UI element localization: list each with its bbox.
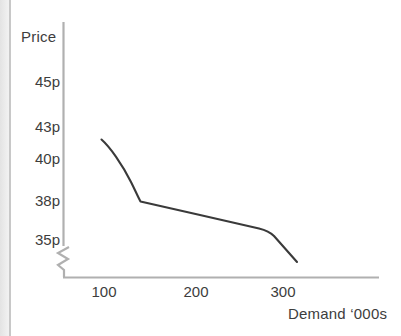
y-tick-label-45p: 45p [35,73,60,90]
y-axis-title: Price [21,28,56,45]
y-axis-break-icon [58,247,69,277]
x-tick-label-300: 300 [261,283,305,300]
x-tick-label-100: 100 [82,283,126,300]
y-tick-label-38p: 38p [35,192,60,209]
y-tick-label-40p: 40p [35,150,60,167]
demand-curve-chart: Price Demand ‘000s 45p 43p 40p 38p 35p 1… [0,0,401,336]
x-axis-title: Demand ‘000s [288,305,387,322]
y-tick-label-35p: 35p [35,231,60,248]
demand-curve-line [102,140,298,263]
x-tick-label-200: 200 [174,283,218,300]
chart-page: Price Demand ‘000s 45p 43p 40p 38p 35p 1… [0,0,401,336]
y-tick-label-43p: 43p [35,118,60,135]
